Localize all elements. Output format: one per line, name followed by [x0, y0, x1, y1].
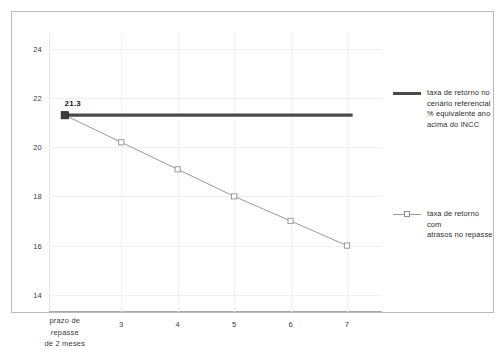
y-tick-label: 16	[33, 241, 42, 250]
legend-label-reference-line: taxa de retorno no cenário referencial %…	[427, 88, 491, 130]
x-tick-label: 6	[288, 320, 292, 329]
data-point-label: 21.3	[65, 99, 81, 108]
x-tick-label: 5	[232, 320, 236, 329]
y-tick-label: 14	[33, 290, 42, 299]
legend-swatch-thick-line	[393, 88, 421, 99]
y-tick-label: 24	[33, 44, 42, 53]
y-tick-label: 20	[33, 143, 42, 152]
data-point-marker[interactable]	[288, 218, 293, 223]
plot-area: 141618202224 prazo derepassede 2 meses34…	[49, 34, 382, 312]
legend-item-delay-line[interactable]: taxa de retorno com atrasos no repasse	[393, 209, 493, 241]
data-point-marker[interactable]	[61, 112, 68, 119]
y-tick-label: 18	[33, 192, 42, 201]
legend-swatch-marker-line	[393, 209, 421, 220]
series-canvas	[49, 34, 382, 312]
data-point-marker[interactable]	[175, 167, 180, 172]
x-tick-label: 7	[345, 320, 349, 329]
series-line-1	[65, 115, 347, 245]
chart-frame: 141618202224 prazo derepassede 2 meses34…	[11, 11, 494, 313]
data-point-marker[interactable]	[119, 140, 124, 145]
data-point-marker[interactable]	[344, 243, 349, 248]
x-tick-label: 4	[175, 320, 179, 329]
x-tick-label: 3	[119, 320, 123, 329]
legend-label-delay-line: taxa de retorno com atrasos no repasse	[427, 209, 493, 241]
x-tick-label: prazo derepassede 2 meses	[44, 315, 85, 350]
data-point-marker[interactable]	[232, 194, 237, 199]
y-tick-label: 22	[33, 93, 42, 102]
legend-item-reference-line[interactable]: taxa de retorno no cenário referencial %…	[393, 88, 491, 130]
